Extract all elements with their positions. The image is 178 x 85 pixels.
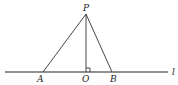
label-o: O — [82, 74, 90, 84]
segment-pa — [43, 14, 86, 72]
segment-pb — [86, 14, 112, 72]
label-a: A — [36, 74, 44, 84]
right-angle-mark — [86, 68, 90, 72]
label-b: B — [109, 74, 117, 84]
label-l: l — [172, 67, 175, 77]
geometry-diagram: P A O B l — [0, 0, 178, 85]
label-p: P — [82, 3, 90, 13]
